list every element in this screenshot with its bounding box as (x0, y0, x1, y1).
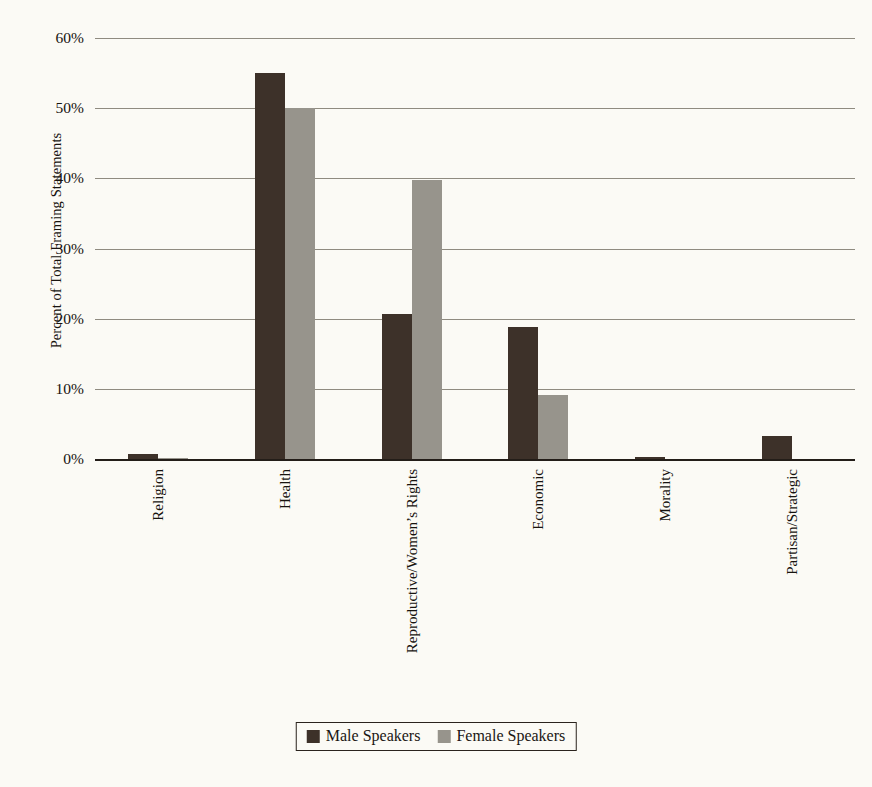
y-axis-tick-label: 60% (56, 29, 84, 47)
bar-group (602, 38, 729, 459)
bar-female (285, 108, 315, 459)
y-axis-tick-label: 10% (56, 380, 84, 398)
legend: Male Speakers Female Speakers (296, 722, 577, 751)
chart-figure: Percent of Total Framing Statements 60%5… (0, 0, 872, 787)
x-axis-tick-label: Economic (530, 469, 547, 530)
bar-female (158, 458, 188, 459)
x-axis-tick-label: Partisan/Strategic (783, 469, 800, 575)
bar-group (728, 38, 855, 459)
x-axis-tick-label: Religion (150, 469, 167, 521)
x-axis-label-cell: Reproductive/Women’s Rights (348, 463, 475, 713)
bar-male (635, 457, 665, 459)
bar-male (762, 436, 792, 459)
x-axis-label-cell: Partisan/Strategic (728, 463, 855, 713)
x-axis-label-cell: Economic (475, 463, 602, 713)
bar-group (95, 38, 222, 459)
bar-male (128, 454, 158, 459)
legend-label-female: Female Speakers (456, 727, 565, 745)
x-axis-label-cell: Health (222, 463, 349, 713)
bar-female (538, 395, 568, 459)
y-axis-tick-label: 20% (56, 310, 84, 328)
legend-swatch-male-icon (307, 730, 320, 743)
bar-groups (95, 38, 855, 459)
y-axis-tick-label: 40% (56, 169, 84, 187)
axis-baseline (95, 459, 855, 461)
bar-male (508, 327, 538, 459)
legend-swatch-female-icon (437, 730, 450, 743)
x-axis-tick-label: Morality (657, 469, 674, 522)
y-axis-tick-label: 0% (63, 450, 84, 468)
legend-item-female[interactable]: Female Speakers (437, 727, 565, 745)
legend-label-male: Male Speakers (326, 727, 421, 745)
x-axis-tick-label: Health (277, 469, 294, 509)
plot-area: 60%50%40%30%20%10%0% (95, 38, 855, 459)
bar-female (412, 180, 442, 459)
y-axis-tick-label: 30% (56, 240, 84, 258)
bar-male (255, 73, 285, 459)
y-axis-tick-label: 50% (56, 99, 84, 117)
bar-male (382, 314, 412, 459)
bar-group (222, 38, 349, 459)
bar-group (475, 38, 602, 459)
x-axis-label-cell: Religion (95, 463, 222, 713)
legend-item-male[interactable]: Male Speakers (307, 727, 421, 745)
bar-group (348, 38, 475, 459)
x-axis-tick-label: Reproductive/Women’s Rights (403, 469, 420, 653)
x-axis-labels: ReligionHealthReproductive/Women’s Right… (95, 463, 855, 713)
x-axis-label-cell: Morality (602, 463, 729, 713)
